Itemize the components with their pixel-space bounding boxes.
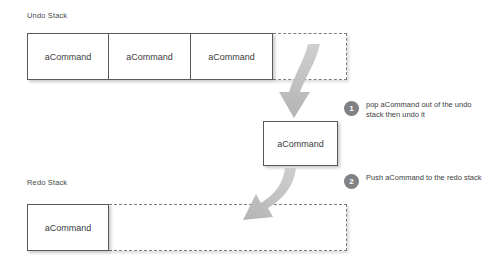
undo-stack-cell: aCommand: [27, 33, 109, 80]
step-2-annotation: 2 Push aCommand to the redo stack: [344, 173, 481, 189]
undo-stack-empty-slot: [273, 33, 347, 80]
step-2-badge: 2: [344, 174, 359, 189]
undo-stack-cell: aCommand: [109, 33, 191, 80]
redo-stack-caption: Redo Stack: [27, 178, 67, 187]
step-1-badge: 1: [344, 101, 359, 116]
step-2-text: Push aCommand to the redo stack: [366, 173, 481, 183]
diagram-canvas: Undo Stack aCommand aCommand aCommand aC…: [0, 0, 499, 272]
popped-command-box: aCommand: [263, 121, 338, 166]
redo-stack: aCommand: [27, 204, 347, 251]
undo-stack-cell: aCommand: [191, 33, 273, 80]
redo-stack-empty-slot: [109, 204, 347, 251]
step-1-annotation: 1 pop aCommand out of the undo stack the…: [344, 100, 484, 120]
step-1-text: pop aCommand out of the undo stack then …: [366, 100, 484, 120]
undo-stack-caption: Undo Stack: [27, 11, 67, 20]
undo-stack: aCommand aCommand aCommand: [27, 33, 347, 80]
redo-stack-cell: aCommand: [27, 204, 109, 251]
